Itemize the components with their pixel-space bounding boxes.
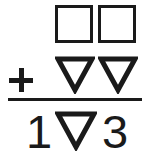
square-placeholder-1[interactable] [55,5,93,43]
horizontal-rule [8,98,142,101]
square-placeholder-2[interactable] [98,5,136,43]
triangle-placeholder-2[interactable] [98,56,138,94]
triangle-placeholder-3[interactable] [55,111,97,151]
addend-row-1 [0,0,150,50]
plus-sign-label: + [9,68,10,69]
triangle-placeholder-1[interactable] [55,56,95,94]
plus-sign-icon: + [9,68,33,92]
sum-digit-1: 1 [24,108,54,155]
sum-digit-3: 3 [100,108,130,155]
plus-vertical-bar [19,68,24,92]
shape-addition-puzzle: + 1 3 □ □ + ▽ ▽ = 1 ▽ 3 [0,0,150,156]
addend-row-2: + [0,50,150,98]
sum-row: 1 3 [0,105,150,156]
